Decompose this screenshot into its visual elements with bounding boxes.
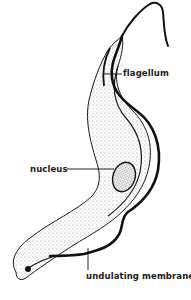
trypanosome-diagram xyxy=(0,0,191,300)
nucleus-label: nucleus xyxy=(30,165,68,174)
flagellum xyxy=(122,3,168,46)
undulating-membrane-label: undulating membrane xyxy=(86,272,191,281)
flagellum-label: flagellum xyxy=(123,69,169,78)
